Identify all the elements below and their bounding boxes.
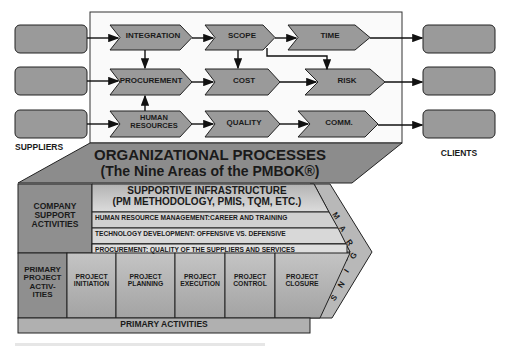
infrastructure-subtitle: (PM METHODOLOGY, PMIS, TQM, ETC.) (92, 197, 322, 208)
support-row-procurement: PROCUREMENT: QUALITY OF THE SUPPLIERS AN… (95, 247, 350, 254)
area-human-resources: HUMAN RESOURCES (118, 114, 190, 130)
phase-execution-line2: EXECUTION (175, 280, 225, 287)
support-row-technology: TECHNOLOGY DEVELOPMENT: OFFENSIVE VS. DE… (95, 231, 340, 238)
phase-control-line1: PROJECT (225, 273, 275, 280)
company-support-line3: ACTIVITIES (18, 220, 92, 229)
phase-execution-line1: PROJECT (175, 273, 225, 280)
phase-execution: PROJECT EXECUTION (175, 273, 225, 287)
phase-initiation-line2: INITIATION (67, 280, 116, 287)
phase-control: PROJECT CONTROL (225, 273, 275, 287)
phase-control-line2: CONTROL (225, 280, 275, 287)
primary-project-activities-label: PRIMARY PROJECT ACTIV- ITIES (18, 266, 67, 300)
clients-label: CLIENTS (423, 149, 495, 158)
area-cost: COST (212, 77, 276, 85)
primary-header-line4: ITIES (18, 291, 67, 299)
area-scope: SCOPE (212, 32, 272, 40)
phase-closure-line2: CLOSURE (277, 280, 327, 287)
phase-initiation-line1: PROJECT (67, 273, 116, 280)
primary-activities-label: PRIMARY ACTIVITIES (18, 320, 310, 329)
support-row-hr: HUMAN RESOURCE MANAGEMENT:CAREER AND TRA… (95, 215, 335, 222)
area-integration: INTEGRATION (118, 32, 188, 40)
phase-planning-line2: PLANNING (116, 280, 175, 287)
phase-planning: PROJECT PLANNING (116, 273, 175, 287)
org-processes-subtitle: (The Nine Areas of the PMBOK®) (60, 164, 360, 179)
supplier-boxes (15, 25, 87, 138)
infrastructure-title: SUPPORTIVE INFRASTRUCTURE (92, 186, 322, 197)
area-time: TIME (296, 32, 364, 40)
area-quality: QUALITY (212, 119, 276, 127)
phase-planning-line1: PROJECT (116, 273, 175, 280)
client-boxes (423, 25, 495, 138)
area-comm: COMM. (306, 119, 372, 127)
phase-closure: PROJECT CLOSURE (277, 273, 327, 287)
area-procurement: PROCUREMENT (112, 77, 190, 85)
phase-closure-line1: PROJECT (277, 273, 327, 280)
caption-fragment (15, 343, 265, 346)
company-support-label: COMPANY SUPPORT ACTIVITIES (18, 202, 92, 229)
org-processes-title: ORGANIZATIONAL PROCESSES (60, 147, 360, 163)
area-human-line2: RESOURCES (118, 122, 190, 130)
phase-initiation: PROJECT INITIATION (67, 273, 116, 287)
area-risk: RISK (314, 77, 380, 85)
